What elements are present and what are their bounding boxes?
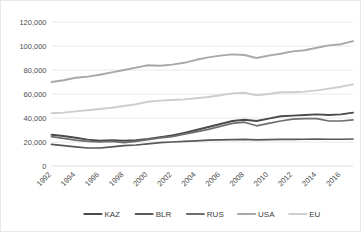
x-axis-tick-label: 2016 [324, 170, 342, 188]
y-axis-tick-label: 40,000 [24, 114, 47, 123]
x-axis-tick-label: 1998 [107, 170, 125, 188]
y-axis-tick-label: 20,000 [24, 138, 47, 147]
line-chart-figure: 120,000100,00080,00060,00040,00020,0000 … [0, 0, 361, 232]
series-lines-group [52, 41, 354, 148]
x-axis-tick-label: 2002 [155, 170, 173, 188]
chart-svg-canvas: 120,000100,00080,00060,00040,00020,0000 … [1, 1, 361, 232]
legend-item-blr[interactable]: BLR [136, 210, 172, 219]
x-axis-tick-label: 2014 [300, 170, 318, 188]
x-axis-tick-label: 2004 [179, 170, 197, 188]
chart-legend: KAZBLRRUSUSAEU [84, 210, 320, 219]
series-line-kaz [52, 113, 354, 141]
x-axis-tick-label: 1992 [35, 170, 53, 188]
y-axis-tick-label: 80,000 [24, 66, 47, 75]
legend-item-rus[interactable]: RUS [187, 210, 224, 219]
series-line-eu [52, 84, 354, 113]
series-line-usa [52, 41, 354, 82]
chart-plot-area: 120,000100,00080,00060,00040,00020,0000 … [1, 1, 361, 232]
y-axis-tick-label: 100,000 [19, 42, 46, 51]
x-axis-tick-label: 2000 [131, 170, 149, 188]
x-axis-tick-label: 2010 [252, 170, 270, 188]
x-axis-tick-labels: 1992199419961998200020022004200620082010… [35, 170, 343, 188]
y-axis-tick-label: 120,000 [19, 18, 46, 27]
legend-item-kaz[interactable]: KAZ [84, 210, 120, 219]
legend-item-eu[interactable]: EU [289, 210, 320, 219]
legend-label-kaz: KAZ [104, 210, 120, 219]
y-axis-tick-label: 60,000 [24, 90, 47, 99]
x-axis-tick-label: 1994 [59, 170, 77, 188]
legend-item-usa[interactable]: USA [238, 210, 275, 219]
legend-label-rus: RUS [207, 210, 224, 219]
x-axis-tick-label: 2006 [204, 170, 222, 188]
y-axis-tick-labels: 120,000100,00080,00060,00040,00020,0000 [19, 18, 46, 171]
x-axis-tick-label: 2008 [228, 170, 246, 188]
legend-label-blr: BLR [156, 210, 172, 219]
legend-label-usa: USA [258, 210, 275, 219]
x-axis-tick-label: 2012 [276, 170, 294, 188]
legend-label-eu: EU [309, 210, 320, 219]
gridlines-group [52, 22, 354, 166]
x-axis-tick-label: 1996 [83, 170, 101, 188]
